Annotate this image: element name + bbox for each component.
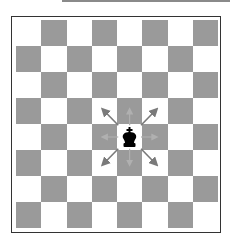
board-square [117,202,142,228]
board-square [142,176,167,202]
board-square [117,176,142,202]
board-square [117,124,142,150]
chessboard [16,20,218,228]
board-square [92,46,117,72]
board-square [16,150,41,176]
board-square [117,20,142,46]
board-square [168,202,193,228]
board-square [193,202,218,228]
board-square [168,176,193,202]
board-square [92,20,117,46]
board-square [16,202,41,228]
board-square [92,124,117,150]
board-square [117,150,142,176]
board-square [193,72,218,98]
board-square [193,124,218,150]
board-square [117,98,142,124]
board-square [67,46,92,72]
board-square [168,46,193,72]
board-square [142,20,167,46]
board-square [168,150,193,176]
board-square [41,72,66,98]
board-square [41,124,66,150]
board-square [92,176,117,202]
board-square [193,20,218,46]
board-square [16,46,41,72]
chessboard-frame [11,16,221,233]
board-square [92,150,117,176]
board-square [41,20,66,46]
board-square [117,72,142,98]
board-square [92,202,117,228]
board-square [67,124,92,150]
board-square [142,98,167,124]
board-square [142,124,167,150]
board-square [67,150,92,176]
board-square [168,20,193,46]
board-square [67,176,92,202]
top-bar [62,0,230,2]
board-square [193,150,218,176]
board-square [142,72,167,98]
black-king-icon [117,124,142,150]
board-square [41,98,66,124]
board-square [117,46,142,72]
board-square [142,202,167,228]
board-square [16,20,41,46]
board-square [67,98,92,124]
board-square [16,124,41,150]
board-square [168,124,193,150]
board-square [41,46,66,72]
board-square [41,202,66,228]
board-square [16,72,41,98]
board-square [67,20,92,46]
board-square [16,176,41,202]
board-square [92,98,117,124]
board-square [67,202,92,228]
board-square [193,98,218,124]
board-square [41,176,66,202]
board-square [142,46,167,72]
board-square [16,98,41,124]
board-square [193,46,218,72]
board-square [67,72,92,98]
board-square [193,176,218,202]
board-square [168,98,193,124]
board-square [92,72,117,98]
board-square [168,72,193,98]
board-square [142,150,167,176]
board-square [41,150,66,176]
